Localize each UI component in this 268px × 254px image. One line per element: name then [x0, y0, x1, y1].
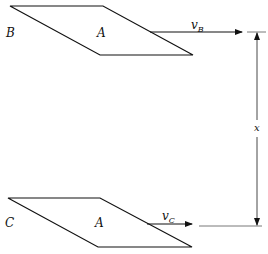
label-c: C	[5, 217, 14, 229]
label-a-top: A	[97, 27, 106, 39]
vc-symbol: v	[162, 209, 169, 223]
label-x: x	[254, 123, 260, 133]
label-vb: vB	[191, 19, 204, 31]
label-a-bottom: A	[95, 217, 104, 229]
diagram-drawing	[0, 0, 268, 254]
diagram-canvas: B A vB C A vC x	[0, 0, 268, 254]
vb-symbol: v	[191, 18, 198, 32]
vc-subscript: C	[169, 216, 175, 225]
label-vc: vC	[162, 210, 175, 222]
label-b: B	[6, 27, 15, 39]
vb-subscript: B	[198, 25, 204, 34]
